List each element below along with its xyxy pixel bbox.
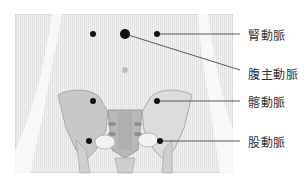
label-femoral-artery: 股動脈: [248, 133, 286, 150]
aorta-leader-line: [125, 34, 240, 70]
right-iliac-point: [154, 98, 160, 104]
label-abdominal-aorta: 腹主動脈: [248, 65, 298, 82]
right-femoral-point: [157, 138, 163, 144]
label-iliac-artery: 髂動脈: [248, 93, 286, 110]
left-femoral-point: [86, 138, 92, 144]
pelvis-icon: [58, 90, 192, 173]
label-renal-artery: 腎動脈: [248, 26, 286, 43]
left-arm-gap: [15, 14, 62, 173]
right-arm-gap: [198, 14, 233, 173]
navel-icon: [122, 67, 128, 73]
left-renal-point: [90, 31, 96, 37]
aorta-point: [120, 29, 130, 39]
left-iliac-point: [90, 98, 96, 104]
right-renal-point: [154, 31, 160, 37]
